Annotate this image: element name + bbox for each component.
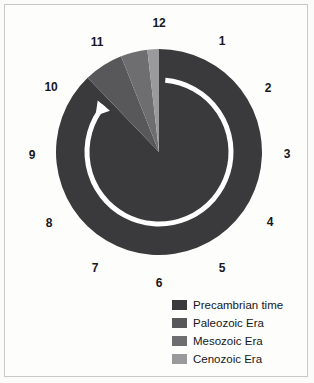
clock-hour-1: 1 (219, 35, 226, 47)
clock-hour-11: 11 (91, 36, 104, 48)
legend-swatch-icon (172, 300, 187, 310)
pie-chart-svg (0, 0, 314, 300)
clock-hour-5: 5 (219, 262, 226, 274)
legend-item-label: Precambrian time (193, 299, 283, 311)
legend-item-label: Mesozoic Era (193, 335, 263, 347)
clock-hour-2: 2 (265, 82, 272, 94)
figure-root: 121234567891011 Precambrian timePaleozoi… (0, 0, 314, 383)
legend-item: Cenozoic Era (172, 350, 304, 367)
legend-item: Mesozoic Era (172, 332, 304, 349)
legend-item: Precambrian time (172, 296, 304, 313)
clock-hour-8: 8 (46, 217, 53, 229)
clock-hour-12: 12 (152, 17, 165, 29)
geologic-clock: 121234567891011 (0, 0, 314, 300)
chart-legend: Precambrian timePaleozoic EraMesozoic Er… (172, 296, 304, 368)
clock-hour-7: 7 (92, 262, 99, 274)
legend-swatch-icon (172, 354, 187, 364)
clock-hour-10: 10 (44, 81, 57, 93)
clock-hour-4: 4 (267, 216, 274, 228)
clock-hour-9: 9 (29, 149, 36, 161)
clock-hour-3: 3 (284, 148, 291, 160)
legend-item-label: Cenozoic Era (193, 353, 262, 365)
legend-item: Paleozoic Era (172, 314, 304, 331)
legend-swatch-icon (172, 336, 187, 346)
legend-swatch-icon (172, 318, 187, 328)
legend-item-label: Paleozoic Era (193, 317, 264, 329)
clock-hour-6: 6 (156, 277, 163, 289)
